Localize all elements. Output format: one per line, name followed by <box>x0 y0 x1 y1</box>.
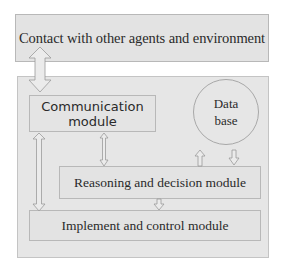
down-arrow-icon <box>154 199 164 210</box>
connector-arrows <box>0 0 285 271</box>
double-arrow-icon <box>29 47 51 92</box>
diagram-canvas: Contact with other agents and environmen… <box>0 0 285 271</box>
double-arrow-icon <box>33 133 45 211</box>
double-arrow-icon <box>100 133 108 166</box>
down-arrow-icon <box>229 150 239 165</box>
up-arrow-icon <box>195 150 205 166</box>
